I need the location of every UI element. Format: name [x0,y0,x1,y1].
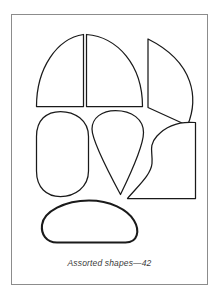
quarter-circle-left-shape [37,35,84,107]
curved-wedge-right-shape [148,39,193,126]
plate-frame: Assorted shapes—42 [11,14,208,285]
quarter-circle-center-shape [87,35,143,107]
page-root: Assorted shapes—42 [0,0,224,297]
kite-teardrop-center-shape [92,111,144,195]
plate-caption: Assorted shapes—42 [12,258,207,268]
rounded-blob-bottom-shape [42,201,137,243]
assorted-shapes-illustration [12,15,209,286]
stadium-oval-left-shape [37,112,89,197]
